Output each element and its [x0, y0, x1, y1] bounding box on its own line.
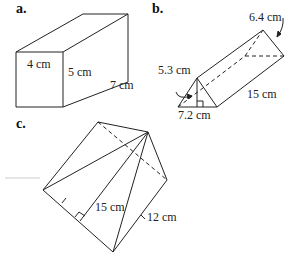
label-slant-height: 15 cm: [95, 201, 125, 213]
label-slant-side: 6.4 cm: [249, 11, 282, 23]
label-length: 7 cm: [110, 79, 134, 91]
square-pyramid: [43, 122, 167, 252]
label-width: 4 cm: [27, 58, 51, 70]
geometry-figures: a. b. c. 4 cm 5 cm 7 cm 6.4 cm 5.3 cm 7.…: [0, 0, 289, 258]
figures-canvas: [0, 0, 289, 258]
label-triangle-height: 5.3 cm: [158, 64, 191, 76]
part-label-c: c.: [16, 117, 26, 131]
label-height: 5 cm: [68, 66, 92, 78]
label-base-side: 12 cm: [147, 211, 177, 223]
label-base: 7.2 cm: [178, 109, 211, 121]
part-label-a: a.: [16, 2, 27, 16]
part-label-b: b.: [152, 2, 163, 16]
label-prism-length: 15 cm: [247, 88, 277, 100]
